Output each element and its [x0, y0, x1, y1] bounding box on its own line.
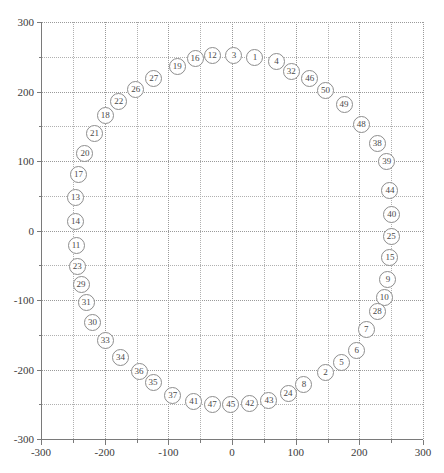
data-point-marker: 36 — [131, 363, 148, 380]
data-point-marker: 43 — [260, 392, 277, 409]
x-axis-tick — [296, 440, 297, 445]
x-axis-tick — [359, 440, 360, 445]
data-point-marker: 8 — [295, 376, 312, 393]
x-axis-minor-tick — [328, 440, 329, 443]
y-axis-tick — [37, 300, 42, 301]
gridline-vertical — [264, 22, 265, 439]
y-axis-tick — [37, 231, 42, 232]
data-point-marker: 4 — [268, 53, 285, 70]
data-point-marker: 21 — [86, 125, 103, 142]
x-axis-tick-label: -100 — [158, 446, 178, 458]
data-point-marker: 2 — [317, 364, 334, 381]
x-axis-minor-tick — [200, 440, 201, 443]
x-axis-tick — [232, 440, 233, 445]
x-axis-minor-tick — [137, 440, 138, 443]
data-point-marker: 22 — [110, 93, 127, 110]
data-point-marker: 42 — [241, 395, 258, 412]
data-point-marker: 31 — [78, 294, 95, 311]
y-axis-minor-tick — [39, 126, 42, 127]
data-point-marker: 9 — [379, 271, 396, 288]
y-axis-minor-tick — [39, 404, 42, 405]
x-axis-tick-label: -200 — [95, 446, 115, 458]
x-axis-tick-label: 300 — [415, 446, 432, 458]
data-point-marker: 26 — [127, 81, 144, 98]
y-axis-tick-label: -300 — [14, 433, 34, 445]
data-point-marker: 46 — [301, 70, 318, 87]
y-axis-tick-label: -100 — [14, 294, 34, 306]
x-axis-minor-tick — [264, 440, 265, 443]
data-point-marker: 24 — [280, 385, 297, 402]
y-axis-tick-label: 200 — [18, 86, 35, 98]
data-point-marker: 35 — [145, 374, 162, 391]
gridline-vertical — [73, 22, 74, 439]
x-axis-line — [41, 439, 423, 440]
gridline-vertical — [232, 22, 233, 439]
gridline-vertical — [359, 22, 360, 439]
x-axis-tick-label: 200 — [351, 446, 368, 458]
data-point-marker: 27 — [145, 70, 162, 87]
x-axis-tick-label: 100 — [287, 446, 304, 458]
y-axis-tick-labels: -300-200-1000100200300 — [0, 22, 34, 439]
gridline-vertical — [423, 22, 424, 439]
data-point-marker: 45 — [222, 396, 239, 413]
data-point-marker: 49 — [336, 96, 353, 113]
data-point-marker: 47 — [204, 396, 221, 413]
gridline-vertical — [200, 22, 201, 439]
data-point-marker: 1 — [246, 49, 263, 66]
data-point-marker: 15 — [381, 249, 398, 266]
data-point-marker: 32 — [283, 63, 300, 80]
data-point-marker: 19 — [169, 58, 186, 75]
data-point-marker: 18 — [97, 107, 114, 124]
data-point-marker: 30 — [84, 314, 101, 331]
x-axis-tick — [423, 440, 424, 445]
y-axis-minor-tick — [39, 196, 42, 197]
data-point-marker: 40 — [383, 206, 400, 223]
data-point-marker: 6 — [348, 342, 365, 359]
x-axis-minor-tick — [73, 440, 74, 443]
x-axis-minor-tick — [391, 440, 392, 443]
x-axis-tick — [168, 440, 169, 445]
data-point-marker: 3 — [225, 47, 242, 64]
y-axis-tick — [37, 161, 42, 162]
data-point-marker: 29 — [73, 276, 90, 293]
x-axis-tick — [105, 440, 106, 445]
y-axis-tick-label: 0 — [29, 225, 35, 237]
data-point-marker: 44 — [381, 182, 398, 199]
data-point-marker: 28 — [369, 303, 386, 320]
plot-area: 1234567891011121314151617181920212223242… — [41, 22, 423, 439]
data-point-marker: 5 — [333, 354, 350, 371]
data-point-marker: 25 — [383, 228, 400, 245]
data-point-marker: 23 — [69, 258, 86, 275]
data-point-marker: 14 — [67, 213, 84, 230]
y-axis-tick-label: -200 — [14, 364, 34, 376]
data-point-marker: 34 — [112, 349, 129, 366]
y-axis-minor-tick — [39, 335, 42, 336]
data-point-marker: 12 — [204, 47, 221, 64]
data-point-marker: 16 — [187, 50, 204, 67]
x-axis-tick — [41, 440, 42, 445]
data-point-marker: 37 — [164, 387, 181, 404]
x-axis-tick-labels: -300-200-1000100200300 — [41, 446, 423, 462]
y-axis-minor-tick — [39, 57, 42, 58]
data-point-marker: 11 — [68, 237, 85, 254]
y-axis-tick-label: 300 — [18, 16, 35, 28]
data-point-marker: 50 — [317, 82, 334, 99]
data-point-marker: 7 — [358, 321, 375, 338]
gridline-vertical — [168, 22, 169, 439]
data-point-marker: 38 — [369, 135, 386, 152]
data-point-marker: 13 — [67, 189, 84, 206]
data-point-marker: 17 — [70, 166, 87, 183]
x-axis-tick-label: -300 — [31, 446, 51, 458]
data-point-marker: 20 — [76, 145, 93, 162]
y-axis-tick — [37, 92, 42, 93]
gridline-vertical — [105, 22, 106, 439]
scatter-plot-figure: 1234567891011121314151617181920212223242… — [0, 0, 444, 473]
data-point-marker: 39 — [378, 153, 395, 170]
x-axis-tick-label: 0 — [229, 446, 235, 458]
y-axis-minor-tick — [39, 265, 42, 266]
data-point-marker: 33 — [97, 332, 114, 349]
gridline-vertical — [296, 22, 297, 439]
data-point-marker: 48 — [353, 116, 370, 133]
y-axis-line — [41, 22, 42, 439]
y-axis-tick — [37, 22, 42, 23]
